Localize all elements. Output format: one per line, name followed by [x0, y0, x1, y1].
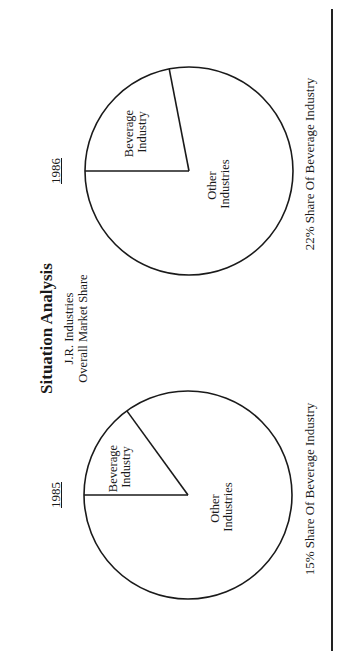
pie-chart-1986: Beverage Industry Other Industries	[85, 67, 293, 275]
slice-label-beverage-1986: Beverage Industry	[122, 107, 149, 157]
document-page: Situation Analysis J.R. Industries Overa…	[0, 0, 345, 657]
slice-label-other-1985: Other Industries	[208, 482, 235, 531]
bottom-rule	[331, 9, 333, 651]
pie-chart-1985: Beverage Industry Other Industries	[84, 391, 292, 599]
slice-label-other-1986: Other Industries	[205, 159, 232, 208]
slice-divider	[127, 411, 188, 495]
slice-label-beverage-1985: Beverage Industry	[106, 442, 133, 492]
pie-charts: Beverage Industry Other Industries Bever…	[0, 0, 345, 657]
caption-1985: 15% Share Of Beverage Industry	[302, 339, 318, 639]
caption-1986: 22% Share Of Beverage Industry	[302, 14, 318, 314]
slice-divider	[169, 69, 189, 171]
